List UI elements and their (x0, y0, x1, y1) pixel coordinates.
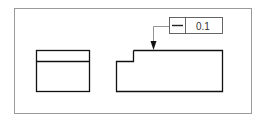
front-view (37, 51, 90, 92)
feature-control-frame: 0.1 (170, 18, 223, 34)
technical-drawing: 0.1 (0, 0, 264, 119)
leader-arrow (151, 27, 170, 51)
tolerance-value: 0.1 (196, 21, 210, 32)
arrowhead-icon (151, 41, 157, 50)
side-view-profile (117, 51, 223, 92)
